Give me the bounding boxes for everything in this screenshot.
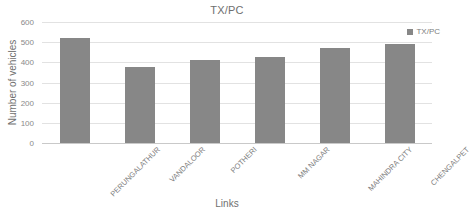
bar[interactable] bbox=[385, 44, 415, 143]
chart-title: TX/PC bbox=[0, 4, 454, 16]
bar[interactable] bbox=[125, 67, 155, 143]
bar-slot bbox=[42, 22, 107, 143]
y-axis-tick-labels: 0100200300400500600 bbox=[0, 22, 38, 143]
y-tick-label: 600 bbox=[21, 18, 34, 27]
y-tick-label: 500 bbox=[21, 38, 34, 47]
bar-slot bbox=[107, 22, 172, 143]
y-tick-label: 300 bbox=[21, 78, 34, 87]
x-tick-label: MAHINDRA CITY bbox=[366, 145, 414, 193]
x-tick-label: POTHERI bbox=[228, 145, 258, 175]
bar-slot bbox=[172, 22, 237, 143]
plot-area bbox=[42, 22, 432, 143]
bar-slot bbox=[237, 22, 302, 143]
bar[interactable] bbox=[190, 60, 220, 143]
bar[interactable] bbox=[320, 48, 350, 143]
bar[interactable] bbox=[60, 38, 90, 143]
bar-slot bbox=[367, 22, 432, 143]
x-tick-label: CHENGALPET bbox=[428, 145, 470, 187]
y-tick-label: 0 bbox=[30, 139, 34, 148]
bar-series-txpc bbox=[42, 22, 432, 143]
y-tick-label: 400 bbox=[21, 58, 34, 67]
x-axis-baseline bbox=[42, 143, 432, 144]
x-tick-label: MM NAGAR bbox=[296, 145, 332, 181]
bar-slot bbox=[302, 22, 367, 143]
y-tick-label: 100 bbox=[21, 118, 34, 127]
x-axis-title: Links bbox=[0, 198, 454, 209]
x-axis-tick-labels: PERUNGALATHURVANDALOORPOTHERIMM NAGARMAH… bbox=[42, 145, 432, 197]
x-tick-label: PERUNGALATHUR bbox=[108, 145, 161, 198]
x-tick-label: VANDALOOR bbox=[167, 145, 206, 184]
y-tick-label: 200 bbox=[21, 98, 34, 107]
bar[interactable] bbox=[255, 57, 285, 143]
